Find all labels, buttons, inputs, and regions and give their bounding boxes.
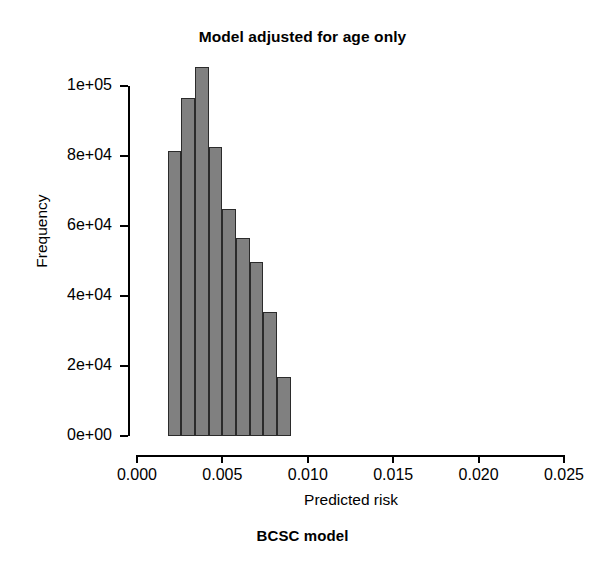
histogram-bar xyxy=(168,151,182,436)
y-axis-tick xyxy=(120,225,128,227)
x-axis-tick xyxy=(392,455,394,463)
histogram-bar xyxy=(263,312,277,436)
x-axis-tick-label: 0.015 xyxy=(353,466,433,484)
x-axis-tick-label: 0.020 xyxy=(439,466,519,484)
y-axis-tick xyxy=(120,365,128,367)
x-axis-tick-label: 0.025 xyxy=(524,466,604,484)
x-axis-tick xyxy=(478,455,480,463)
plot-area: 0.0000.0050.0100.0150.0200.025 0e+002e+0… xyxy=(0,0,605,562)
x-axis-tick xyxy=(221,455,223,463)
histogram-bar xyxy=(277,377,291,437)
y-axis-tick-label: 0e+00 xyxy=(24,426,112,444)
x-axis-tick xyxy=(307,455,309,463)
y-axis-tick-label: 2e+04 xyxy=(24,356,112,374)
y-axis-tick xyxy=(120,155,128,157)
x-axis-tick xyxy=(563,455,565,463)
x-axis-tick-label: 0.005 xyxy=(182,466,262,484)
y-axis-line xyxy=(128,86,130,436)
chart-caption: BCSC model xyxy=(0,527,605,544)
x-axis-tick xyxy=(136,455,138,463)
histogram-bar xyxy=(181,98,195,436)
histogram-bar xyxy=(209,147,223,436)
y-axis-tick xyxy=(120,85,128,87)
histogram-bar xyxy=(195,67,209,436)
y-axis-tick xyxy=(120,435,128,437)
histogram-bar xyxy=(250,262,264,436)
x-axis-line xyxy=(137,455,565,457)
y-axis-tick-label: 1e+05 xyxy=(24,76,112,94)
x-axis-tick-label: 0.010 xyxy=(268,466,348,484)
histogram-bar xyxy=(222,209,236,437)
x-axis-title: Predicted risk xyxy=(137,491,565,509)
x-axis-tick-label: 0.000 xyxy=(97,466,177,484)
histogram-figure: Model adjusted for age only 0.0000.0050.… xyxy=(0,0,605,562)
y-axis-tick xyxy=(120,295,128,297)
y-axis-title: Frequency xyxy=(33,161,51,301)
histogram-bar xyxy=(236,238,250,436)
